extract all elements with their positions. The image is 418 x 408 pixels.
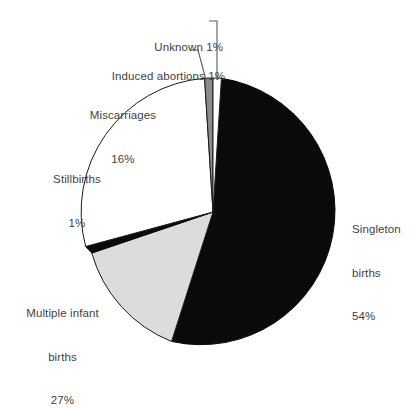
pie-label-multiple-infant-births-name2: births xyxy=(4,350,121,365)
pie-label-singleton-births-name1: Singleton xyxy=(352,222,418,237)
pie-label-stillbirths: Stillbirths 1% xyxy=(22,143,132,259)
pie-label-multiple-infant-births: Multiple infant births 27% xyxy=(4,277,121,408)
pie-label-stillbirths-value: 1% xyxy=(22,216,132,231)
pie-label-singleton-births: Singleton births 54% xyxy=(352,193,418,353)
pie-label-singleton-births-value: 54% xyxy=(352,309,418,324)
pie-label-multiple-infant-births-value: 27% xyxy=(4,393,121,408)
pie-label-multiple-infant-births-name1: Multiple infant xyxy=(4,306,121,321)
pie-label-singleton-births-name2: births xyxy=(352,266,418,281)
pie-label-miscarriages-name: Miscarriages xyxy=(60,108,186,123)
pie-label-stillbirths-name: Stillbirths xyxy=(22,172,132,187)
